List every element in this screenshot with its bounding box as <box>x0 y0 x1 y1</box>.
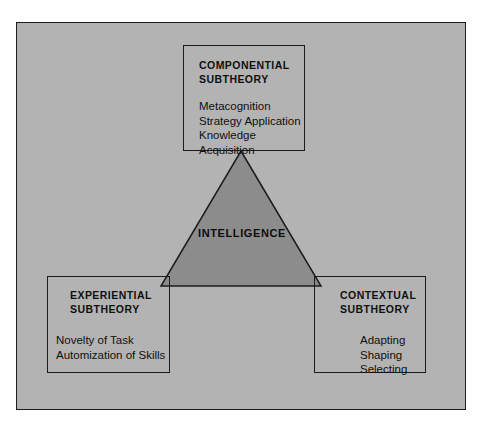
triangle-center-label: INTELLIGENCE <box>17 227 467 239</box>
diagram-canvas: INTELLIGENCE COMPONENTIAL SUBTHEORY Meta… <box>0 0 478 425</box>
box-contextual-header: CONTEXTUAL SUBTHEORY <box>340 289 416 316</box>
box-componential-subtheory: COMPONENTIAL SUBTHEORY Metacognition Str… <box>183 45 305 151</box>
box-componential-header: COMPONENTIAL SUBTHEORY <box>199 59 290 86</box>
box-componential-body: Metacognition Strategy Application Knowl… <box>199 99 304 157</box>
box-experiential-body: Novelty of Task Automization of Skills <box>56 333 165 362</box>
box-experiential-subtheory: EXPERIENTIAL SUBTHEORY Novelty of Task A… <box>47 276 170 373</box>
box-experiential-header: EXPERIENTIAL SUBTHEORY <box>70 289 152 316</box>
box-contextual-subtheory: CONTEXTUAL SUBTHEORY Adapting Shaping Se… <box>314 276 426 373</box>
box-contextual-body: Adapting Shaping Selecting <box>360 333 407 377</box>
diagram-frame: INTELLIGENCE COMPONENTIAL SUBTHEORY Meta… <box>16 22 466 410</box>
triangle-shape <box>161 151 321 286</box>
